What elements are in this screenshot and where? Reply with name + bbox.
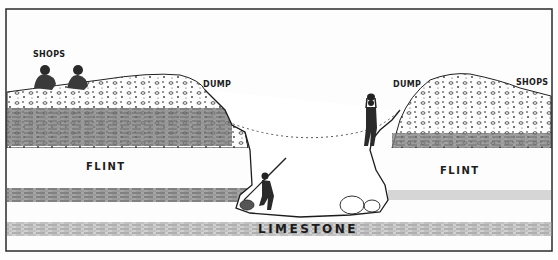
left-flint-layer	[7, 148, 249, 188]
right-lower-strata	[388, 190, 551, 200]
label-shops-right: SHOPS	[516, 78, 548, 87]
label-limestone: LIMESTONE	[258, 222, 358, 236]
label-flint-left: FLINT	[86, 161, 126, 172]
label-shops-left: SHOPS	[33, 50, 65, 59]
label-dump-left: DUMP	[203, 80, 231, 89]
flint-mine-diagram: SHOPS DUMP DUMP SHOPS FLINT FLINT LIMEST…	[0, 0, 558, 260]
label-dump-right: DUMP	[393, 80, 421, 89]
label-flint-right: FLINT	[440, 165, 480, 176]
diagram-artwork	[0, 0, 558, 260]
